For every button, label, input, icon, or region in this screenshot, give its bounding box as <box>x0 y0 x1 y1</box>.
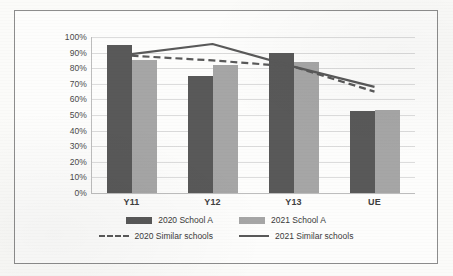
y-axis-tick-label: 70% <box>70 79 87 89</box>
x-axis-tick-label-y11: Y11 <box>123 197 139 207</box>
legend-row-lines: 2020 Similar schools 2021 Similar school… <box>15 231 437 241</box>
line-2020-similar-schools <box>132 56 375 92</box>
chart-plot-wrapper: 100%90%80%70%60%50%40%30%20%10%0% Y11Y12… <box>15 11 437 263</box>
x-axis-tick-label-ue: UE <box>368 197 381 207</box>
legend-swatch-line-dashed <box>99 235 129 237</box>
chart-legend: 2020 School A 2021 School A 2020 Similar… <box>15 215 437 247</box>
y-axis-tick-label: 100% <box>65 32 87 42</box>
gridline <box>91 193 415 194</box>
chart-frame: 100%90%80%70%60%50%40%30%20%10%0% Y11Y12… <box>14 10 438 264</box>
y-axis-tick-label: 80% <box>70 63 87 73</box>
legend-swatch-bar-2021 <box>239 217 265 224</box>
legend-item-2020-school-a[interactable]: 2020 School A <box>126 215 213 225</box>
legend-swatch-bar-2020 <box>126 217 152 224</box>
y-axis-tick-label: 40% <box>70 126 87 136</box>
y-axis-tick-label: 50% <box>70 110 87 120</box>
legend-label-2021-similar-schools: 2021 Similar schools <box>275 231 353 241</box>
legend-label-2020-school-a: 2020 School A <box>158 215 213 225</box>
x-axis-tick-label-y12: Y12 <box>204 197 221 207</box>
x-axis-tick-label-y13: Y13 <box>285 197 302 207</box>
legend-label-2020-similar-schools: 2020 Similar schools <box>135 231 213 241</box>
legend-item-2020-similar-schools[interactable]: 2020 Similar schools <box>99 231 213 241</box>
legend-item-2021-similar-schools[interactable]: 2021 Similar schools <box>239 231 353 241</box>
y-axis-tick-label: 10% <box>70 172 87 182</box>
legend-row-bars: 2020 School A 2021 School A <box>15 215 437 225</box>
y-axis-tick-label: 0% <box>75 188 88 198</box>
y-axis-tick-label: 60% <box>70 94 87 104</box>
line-series-layer <box>91 37 415 193</box>
y-axis-tick-labels: 100%90%80%70%60%50%40%30%20%10%0% <box>41 37 87 193</box>
y-axis-tick-label: 90% <box>70 48 87 58</box>
legend-label-2021-school-a: 2021 School A <box>271 215 326 225</box>
y-axis-tick-label: 20% <box>70 157 87 167</box>
legend-item-2021-school-a[interactable]: 2021 School A <box>239 215 326 225</box>
y-axis-tick-label: 30% <box>70 141 87 151</box>
legend-swatch-line-solid <box>239 235 269 237</box>
x-axis-tick-labels: Y11Y12Y13UE <box>91 197 415 211</box>
